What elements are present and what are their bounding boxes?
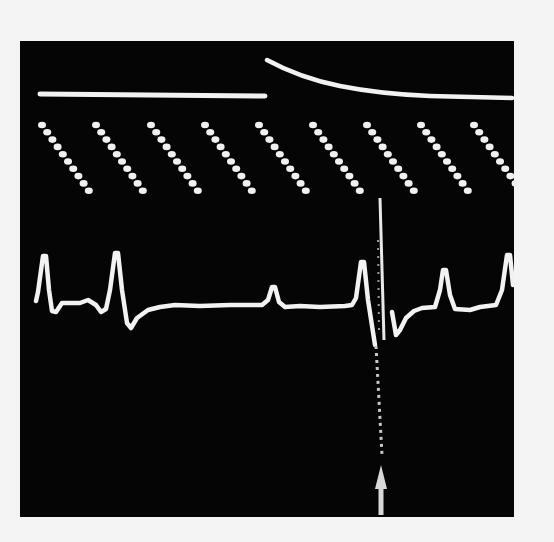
timing-dot: [394, 166, 402, 173]
timing-dot: [152, 129, 160, 136]
timing-dot: [255, 122, 263, 129]
timing-dot: [486, 144, 494, 151]
timing-dot: [368, 129, 376, 136]
timing-dot: [243, 180, 251, 187]
timing-dot: [475, 129, 483, 136]
timing-dot: [128, 173, 136, 180]
timing-dot: [379, 144, 387, 151]
timing-dot: [297, 180, 305, 187]
timing-dot: [217, 144, 225, 151]
ecg-trace: [36, 253, 513, 345]
timing-dot: [464, 187, 472, 194]
timing-dot: [232, 166, 240, 173]
timing-dot: [271, 144, 279, 151]
timing-dot: [276, 151, 284, 158]
timing-dot: [102, 136, 110, 143]
timing-dot: [139, 187, 147, 194]
timing-dot: [222, 151, 230, 158]
timing-dot: [438, 151, 446, 158]
timing-dot: [85, 187, 93, 194]
timing-dot: [291, 173, 299, 180]
timing-dot: [69, 166, 77, 173]
timing-marks: [38, 122, 520, 194]
timing-dot: [123, 166, 131, 173]
timing-dot: [373, 136, 381, 143]
timing-dot: [448, 166, 456, 173]
timing-dot: [506, 173, 514, 180]
timing-dot: [501, 166, 509, 173]
timing-dot: [335, 158, 343, 165]
timing-dot: [491, 151, 499, 158]
timing-dot: [189, 180, 197, 187]
timing-dot: [74, 173, 82, 180]
timing-dot: [433, 144, 441, 151]
timing-dot: [363, 122, 371, 129]
timing-dot: [470, 122, 478, 129]
timing-dot: [194, 187, 202, 194]
timing-dot: [345, 173, 353, 180]
timing-dot: [147, 122, 155, 129]
timing-dot: [43, 129, 51, 136]
timing-dot: [480, 136, 488, 143]
timing-dot: [405, 180, 413, 187]
timing-dot: [410, 187, 418, 194]
timing-dot: [340, 166, 348, 173]
timing-dot: [108, 144, 116, 151]
timing-dot: [443, 158, 451, 165]
timing-dot: [211, 136, 219, 143]
timing-dot: [265, 136, 273, 143]
arrow-marker-icon: [375, 465, 387, 515]
timing-dot: [54, 144, 62, 151]
timing-dot: [173, 158, 181, 165]
timing-dot: [453, 173, 461, 180]
timing-dot: [80, 180, 88, 187]
timing-dot: [38, 122, 46, 129]
timing-dot: [314, 129, 322, 136]
timing-dot: [512, 180, 520, 187]
stimulus-artifact: [376, 198, 384, 455]
timing-dot: [48, 136, 56, 143]
timing-dot: [248, 187, 256, 194]
timing-dot: [309, 122, 317, 129]
timing-dot: [92, 122, 100, 129]
timing-dot: [59, 151, 67, 158]
timing-dot: [157, 136, 165, 143]
timing-dot: [201, 122, 209, 129]
timing-dot: [281, 158, 289, 165]
top-trace: [40, 60, 512, 98]
timing-dot: [64, 158, 72, 165]
timing-dot: [118, 158, 126, 165]
timing-dot: [260, 129, 268, 136]
timing-dot: [427, 136, 435, 143]
timing-dot: [302, 187, 310, 194]
timing-dot: [325, 144, 333, 151]
timing-dot: [384, 151, 392, 158]
timing-dot: [237, 173, 245, 180]
timing-dot: [113, 151, 121, 158]
timing-dot: [206, 129, 214, 136]
timing-dot: [319, 136, 327, 143]
timing-dot: [417, 122, 425, 129]
timing-dot: [178, 166, 186, 173]
timing-dot: [399, 173, 407, 180]
timing-dot: [389, 158, 397, 165]
timing-dot: [356, 187, 364, 194]
timing-dot: [227, 158, 235, 165]
timing-dot: [351, 180, 359, 187]
timing-dot: [183, 173, 191, 180]
timing-dot: [459, 180, 467, 187]
timing-dot: [330, 151, 338, 158]
oscilloscope-traces: [0, 0, 554, 542]
timing-dot: [422, 129, 430, 136]
timing-dot: [496, 158, 504, 165]
timing-dot: [134, 180, 142, 187]
timing-dot: [286, 166, 294, 173]
timing-dot: [97, 129, 105, 136]
timing-dot: [163, 144, 171, 151]
timing-dot: [168, 151, 176, 158]
